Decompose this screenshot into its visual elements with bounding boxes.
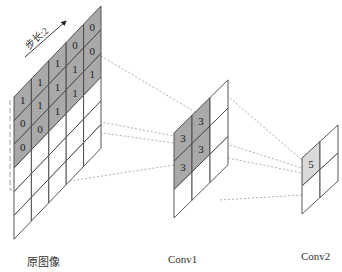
caption-conv2: Conv2 [301,250,330,262]
cell-value: 0 [90,21,96,33]
conv1-grid: 3333 [174,80,228,218]
caption-conv1: Conv1 [168,253,197,265]
cell-value: 1 [72,87,78,99]
cell-value: 0 [37,123,43,135]
cell-value: 1 [37,99,43,111]
convolution-diagram: 111000111000111 3333 5 [0,0,342,272]
cell-value: 0 [20,117,26,129]
cell-value: 1 [55,57,61,69]
cell-value: 1 [55,81,61,93]
cell-value: 3 [198,143,204,155]
cell-value: 0 [20,141,26,153]
cell-value: 0 [90,45,96,57]
caption-original: 原图像 [27,253,60,269]
cell-value: 0 [72,39,78,51]
cell-value: 3 [180,132,186,144]
cell-value: 3 [180,161,186,173]
cell-value: 1 [72,63,78,75]
cell-value: 1 [20,94,26,106]
conv2-grid: 5 [302,125,338,214]
cell-value: 1 [90,68,96,80]
cell-value: 5 [308,158,314,170]
cell-value: 1 [37,76,43,88]
cell-value: 3 [198,115,204,127]
cell-value: 1 [55,105,61,117]
